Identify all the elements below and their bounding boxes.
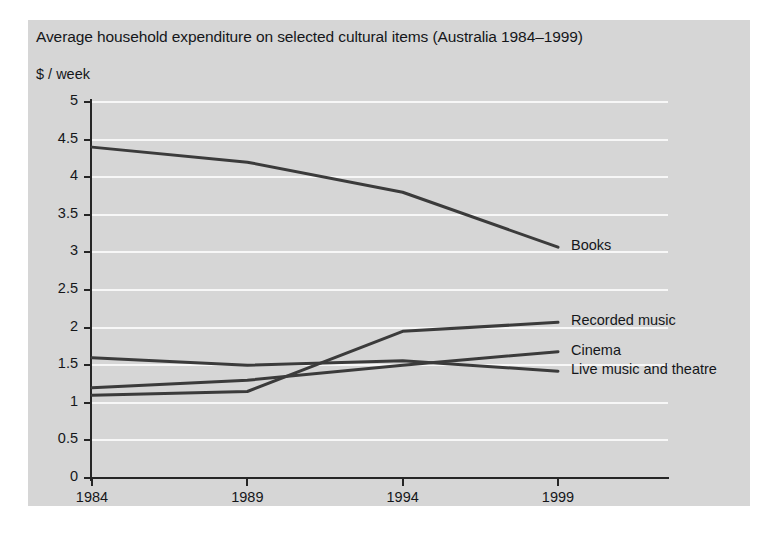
- y-tick-label: 0.5: [58, 430, 78, 446]
- y-tick-mark: [84, 364, 92, 366]
- y-tick-label: 1.5: [58, 355, 78, 371]
- x-tick-label: 1989: [207, 489, 287, 505]
- x-tick-mark: [557, 478, 559, 486]
- gridline: [92, 176, 668, 178]
- x-tick-mark: [246, 478, 248, 486]
- x-tick-label: 1999: [518, 489, 598, 505]
- gridline: [92, 402, 668, 404]
- x-tick-label: 1984: [52, 489, 132, 505]
- y-tick-mark: [84, 251, 92, 253]
- series-label: Cinema: [571, 342, 621, 358]
- y-tick-mark: [84, 139, 92, 141]
- chart-title: Average household expenditure on selecte…: [36, 28, 583, 46]
- y-tick-label: 4: [70, 167, 78, 183]
- y-tick-mark: [84, 289, 92, 291]
- x-axis-line: [91, 477, 669, 479]
- series-label: Books: [571, 237, 611, 253]
- y-tick-mark: [84, 214, 92, 216]
- x-tick-mark: [91, 478, 93, 486]
- y-tick-label: 3: [70, 242, 78, 258]
- gridline: [92, 289, 668, 291]
- y-tick-label: 2: [70, 318, 78, 334]
- gridline: [92, 101, 668, 103]
- y-tick-label: 1: [70, 393, 78, 409]
- y-tick-mark: [84, 327, 92, 329]
- y-tick-label: 3.5: [58, 205, 78, 221]
- gridline: [92, 214, 668, 216]
- y-tick-label: 4.5: [58, 130, 78, 146]
- gridline: [92, 439, 668, 441]
- y-tick-label: 0: [70, 468, 78, 484]
- series-label: Live music and theatre: [571, 361, 717, 377]
- x-tick-label: 1994: [363, 489, 443, 505]
- y-tick-label: 2.5: [58, 280, 78, 296]
- gridline: [92, 139, 668, 141]
- y-tick-mark: [84, 402, 92, 404]
- y-tick-mark: [84, 101, 92, 103]
- y-tick-mark: [84, 176, 92, 178]
- y-tick-label: 5: [70, 92, 78, 108]
- y-tick-mark: [84, 439, 92, 441]
- x-tick-mark: [402, 478, 404, 486]
- series-label: Recorded music: [571, 312, 676, 328]
- y-axis-label: $ / week: [36, 66, 90, 82]
- chart-figure: Average household expenditure on selecte…: [0, 0, 769, 538]
